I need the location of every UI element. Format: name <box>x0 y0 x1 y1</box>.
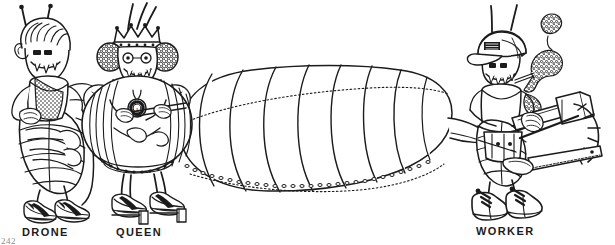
worker-tool-belt <box>478 126 528 162</box>
caption-drone: DRONE <box>22 226 69 238</box>
caption-worker: WORKER <box>476 225 535 237</box>
page-folio-number: 242 <box>1 236 16 245</box>
caption-queen: QUEEN <box>116 226 162 238</box>
illustration-page: 1 <box>0 0 615 245</box>
bee-castes-illustration: 1 <box>0 0 615 245</box>
